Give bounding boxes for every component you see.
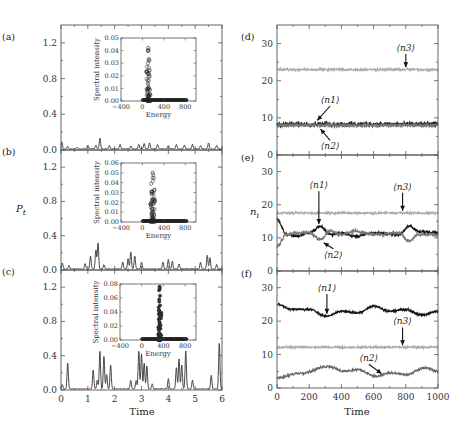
y-tick-label: 20 [262, 200, 274, 210]
y-tick-label: 0.8 [43, 74, 58, 84]
arrowhead-icon [376, 369, 381, 374]
x-tick-label: 600 [365, 392, 382, 402]
inset-y-tick-label: 0.04 [105, 179, 119, 187]
left-y-axis-label: Pt [15, 203, 27, 217]
arrowhead-icon [400, 340, 405, 345]
inset-x-tick-label: 0 [140, 103, 144, 111]
annotation-label: ⟨n2⟩ [321, 141, 340, 151]
annotation-label: ⟨n3⟩ [397, 43, 416, 53]
series-f-1 [277, 366, 438, 379]
right-column-plots: 0102030⟨n3⟩⟨n1⟩⟨n2⟩0102030⟨n1⟩⟨n3⟩⟨n2⟩01… [262, 25, 450, 402]
inset-y-axis-label: Spectral intensity [93, 161, 101, 224]
right-x-axis-label: Time [344, 406, 369, 417]
inset-x-tick-label: 800 [179, 224, 191, 232]
figure: 0.00.40.81.20.000.010.020.030.040.05−400… [0, 0, 468, 435]
inset-x-axis-label: Energy [146, 232, 172, 240]
panel-label-f: (f) [241, 268, 252, 279]
arrowhead-icon [325, 309, 330, 314]
inset-x-tick-label: −400 [112, 224, 130, 232]
inset-y-tick-label: 0.02 [105, 199, 119, 207]
inset-y-tick-label: 0.05 [105, 169, 119, 177]
y-tick-label: 0.4 [43, 231, 58, 241]
series-f-2 [277, 346, 438, 349]
y-tick-label: 0.0 [43, 385, 58, 395]
arrowhead-icon [316, 219, 321, 224]
y-tick-label: 0 [267, 266, 273, 276]
right-y-axis-label: ni [250, 206, 259, 220]
inset-y-tick-label: 0.06 [104, 294, 118, 302]
plot-panel-b: 0.00.40.81.20.000.010.020.030.040.050.06… [43, 150, 222, 275]
x-tick-label: 3 [139, 394, 145, 404]
inset-y-tick-label: 0.08 [104, 280, 118, 288]
annotation-label: ⟨n1⟩ [318, 283, 337, 293]
x-tick-label: 1 [85, 394, 91, 404]
y-tick-label: 1.2 [43, 162, 57, 172]
left-column-plots: 0.00.40.81.20.000.010.020.030.040.05−400… [43, 25, 225, 404]
annotation-label: ⟨n2⟩ [324, 250, 343, 260]
inset-y-tick-label: 0.06 [105, 159, 119, 167]
x-tick-label: 800 [397, 392, 414, 402]
annotation-label: ⟨n1⟩ [321, 95, 340, 105]
x-tick-label: 0 [58, 394, 64, 404]
y-tick-label: 0.0 [43, 145, 58, 155]
inset-y-axis-label: Spectral intensity [92, 280, 100, 343]
series-c-0 [61, 344, 222, 390]
inset-y-tick-label: 0.01 [105, 208, 119, 216]
inset-y-tick-label: 0.02 [105, 72, 119, 80]
inset-y-tick-label: 0.04 [105, 47, 119, 55]
inset-y-tick-label: 0.05 [105, 34, 119, 42]
inset-y-tick-label: 0.02 [104, 322, 118, 330]
y-tick-label: 30 [262, 167, 274, 177]
plot-panel-d: 0102030⟨n3⟩⟨n1⟩⟨n2⟩ [262, 25, 438, 160]
series-e-2 [277, 211, 438, 214]
inset-x-tick-label: 400 [157, 342, 169, 350]
y-tick-label: 30 [262, 39, 274, 49]
x-tick-label: 400 [333, 392, 350, 402]
panel-label-a: (a) [2, 31, 15, 42]
series-b-0 [61, 243, 222, 269]
series-e-0 [277, 218, 438, 238]
inset-y-tick-label: 0.03 [105, 59, 119, 67]
y-tick-label: 0.4 [43, 351, 58, 361]
y-tick-label: 20 [262, 76, 274, 86]
inset-x-tick-label: −400 [112, 103, 130, 111]
annotation-label: ⟨n2⟩ [359, 353, 378, 363]
y-tick-label: 10 [262, 350, 274, 360]
panel-label-c: (c) [2, 266, 15, 277]
inset-x-tick-label: 800 [179, 103, 191, 111]
y-tick-label: 0 [267, 383, 273, 393]
y-tick-label: 1.2 [43, 38, 57, 48]
annotation-label: ⟨n1⟩ [310, 180, 329, 190]
x-tick-label: 0 [274, 392, 280, 402]
left-x-axis-label: Time [129, 406, 154, 417]
panel-label-d: (d) [241, 31, 255, 42]
arrowhead-icon [403, 62, 408, 67]
y-tick-label: 10 [262, 113, 274, 123]
series-e-1 [277, 229, 438, 248]
inset-y-tick-label: 0.01 [105, 85, 119, 93]
inset-y-axis-label: Spectral intensity [93, 38, 101, 101]
annotation-label: ⟨n3⟩ [393, 316, 412, 326]
x-tick-label: 5 [192, 394, 198, 404]
y-tick-label: 0.4 [43, 109, 58, 119]
annotation-label: ⟨n3⟩ [393, 182, 412, 192]
y-tick-label: 1.2 [43, 282, 57, 292]
plot-panel-c: 0.00.40.81.201234560.000.020.040.060.08−… [43, 270, 225, 404]
inset-x-tick-label: 400 [158, 224, 170, 232]
inset-x-tick-label: −400 [111, 342, 129, 350]
y-tick-label: 0 [267, 150, 273, 160]
panel-label-b: (b) [2, 146, 16, 157]
inset-x-tick-label: 0 [140, 224, 144, 232]
x-tick-label: 2 [112, 394, 118, 404]
inset-x-tick-label: 400 [158, 103, 170, 111]
y-tick-label: 30 [262, 283, 274, 293]
series-d-2 [277, 68, 438, 71]
inset-spectrum-b: 0.000.010.020.030.040.050.06−4000400800E… [93, 159, 196, 240]
inset-y-tick-label: 0.03 [105, 189, 119, 197]
x-tick-label: 6 [219, 394, 225, 404]
y-tick-label: 10 [262, 233, 274, 243]
plot-panel-e: 0102030⟨n1⟩⟨n3⟩⟨n2⟩ [262, 155, 438, 276]
inset-y-tick-label: 0.04 [104, 308, 118, 316]
panel-label-e: (e) [241, 152, 254, 163]
inset-x-axis-label: Energy [146, 111, 172, 119]
